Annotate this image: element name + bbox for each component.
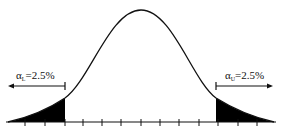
distribution-svg	[0, 0, 282, 134]
bell-curve	[8, 10, 274, 122]
left-tail-region	[8, 98, 65, 122]
right-tail-label: αU=2.5%	[225, 70, 264, 85]
alpha-value: =2.5%	[25, 69, 54, 81]
left-tail-label: αL=2.5%	[16, 70, 55, 85]
normal-distribution-diagram: αL=2.5% αU=2.5%	[0, 0, 282, 134]
alpha-value: =2.5%	[235, 69, 264, 81]
right-tail-region	[216, 98, 274, 122]
